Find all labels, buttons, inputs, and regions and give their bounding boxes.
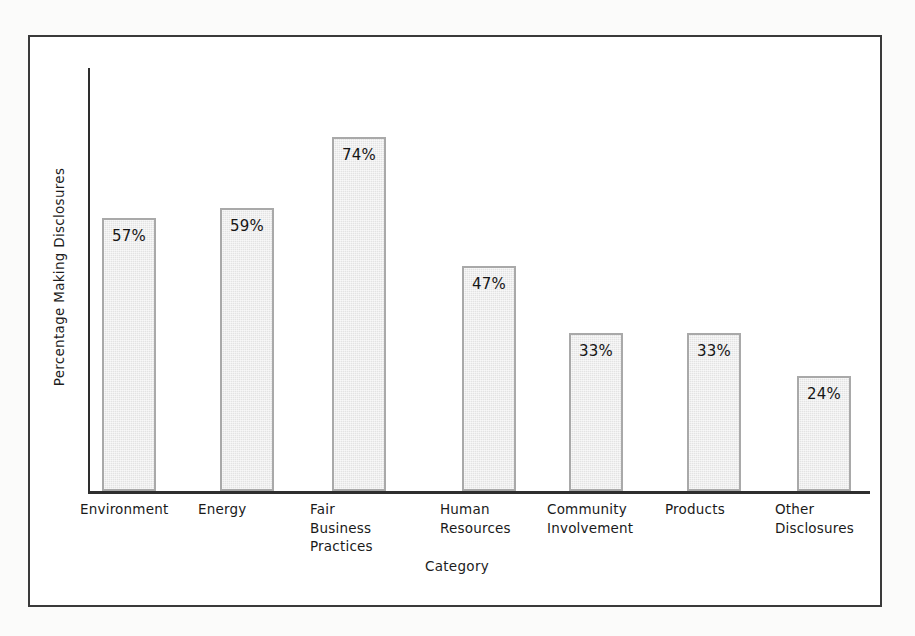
- x-axis-line: [88, 491, 870, 494]
- x-axis-tick-label-line: Community: [547, 500, 661, 519]
- bar-value-label: 33%: [697, 342, 731, 360]
- x-axis-tick-label-line: Environment: [80, 500, 194, 519]
- x-axis-tick-label-line: Products: [665, 500, 779, 519]
- x-axis-tick-label-line: Disclosures: [775, 519, 889, 538]
- x-axis-tick-label-line: Resources: [440, 519, 554, 538]
- y-axis-title: Percentage Making Disclosures: [51, 97, 67, 457]
- x-axis-tick-label: OtherDisclosures: [775, 500, 889, 537]
- bar: 33%: [569, 333, 623, 491]
- x-axis-tick-label-line: Other: [775, 500, 889, 519]
- x-axis-tick-label-line: Energy: [198, 500, 312, 519]
- bar: 74%: [332, 137, 386, 491]
- bar-value-label: 47%: [472, 275, 506, 293]
- plot-area: Percentage Making Disclosures Category 5…: [30, 37, 880, 605]
- bar-value-label: 33%: [579, 342, 613, 360]
- x-axis-tick-label-line: Fair: [310, 500, 424, 519]
- figure-frame: Percentage Making Disclosures Category 5…: [28, 35, 882, 607]
- x-axis-tick-label: CommunityInvolvement: [547, 500, 661, 537]
- bar-value-label: 74%: [342, 146, 376, 164]
- x-axis-tick-label-line: Practices: [310, 537, 424, 556]
- bar-value-label: 59%: [230, 217, 264, 235]
- x-axis-tick-label-line: Business: [310, 519, 424, 538]
- bar: 24%: [797, 376, 851, 491]
- x-axis-tick-label: HumanResources: [440, 500, 554, 537]
- x-axis-tick-label-line: Human: [440, 500, 554, 519]
- x-axis-tick-label: Environment: [80, 500, 194, 519]
- x-axis-tick-label: Energy: [198, 500, 312, 519]
- bar-value-label: 57%: [112, 227, 146, 245]
- bar-value-label: 24%: [807, 385, 841, 403]
- x-axis-tick-label: FairBusinessPractices: [310, 500, 424, 556]
- x-axis-title: Category: [30, 558, 884, 574]
- x-axis-tick-label-line: Involvement: [547, 519, 661, 538]
- bar: 33%: [687, 333, 741, 491]
- bar: 57%: [102, 218, 156, 491]
- y-axis-line: [88, 68, 90, 493]
- bar: 47%: [462, 266, 516, 491]
- x-axis-tick-label: Products: [665, 500, 779, 519]
- bar: 59%: [220, 208, 274, 491]
